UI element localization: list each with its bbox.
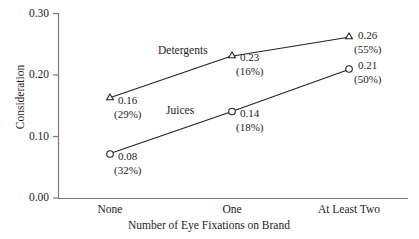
detergents-pct-one: (16%) [236,65,264,77]
x-tick-label-at-least-two: At Least Two [305,203,393,215]
y-tick-label-000: 0.00 [5,191,49,203]
series-label-juices: Juices [166,104,194,116]
series-detergents [107,33,353,100]
detergents-line [112,38,347,98]
series-juices [107,66,353,158]
x-tick-label-one: One [202,203,262,215]
detergents-marker-at-least-two [346,33,353,39]
y-tick-label-030: 0.30 [5,7,49,19]
axes-group [53,13,408,199]
juices-pct-at-least-two: (50%) [354,73,382,85]
juices-value-at-least-two: 0.21 [358,59,377,71]
consideration-line-chart: 0.30 0.20 0.10 0.00 Consideration None O… [0,0,419,239]
series-label-detergents: Detergents [158,44,208,56]
y-axis-title-wrap: Consideration [10,37,28,157]
detergents-value-at-least-two: 0.26 [358,29,377,41]
detergents-pct-at-least-two: (55%) [354,43,382,55]
x-axis-title: Number of Eye Fixations on Brand [109,219,309,231]
detergents-value-one: 0.23 [240,51,259,63]
juices-pct-one: (18%) [236,121,264,133]
x-tick-label-none: None [80,203,140,215]
juices-pct-none: (32%) [114,164,142,176]
detergents-value-none: 0.16 [118,94,137,106]
juices-value-none: 0.08 [118,150,137,162]
detergents-marker-one [229,52,236,58]
juices-value-one: 0.14 [240,107,259,119]
juices-marker-at-least-two [346,66,353,73]
juices-marker-one [229,108,236,115]
juices-marker-none [107,151,114,158]
detergents-pct-none: (29%) [114,108,142,120]
y-axis-title: Consideration [14,65,26,130]
